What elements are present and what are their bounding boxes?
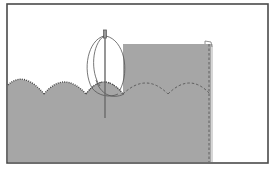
folded-fabric-flap	[123, 44, 211, 94]
illustration-canvas	[0, 0, 274, 182]
scallop-hem-diagram	[0, 0, 274, 182]
